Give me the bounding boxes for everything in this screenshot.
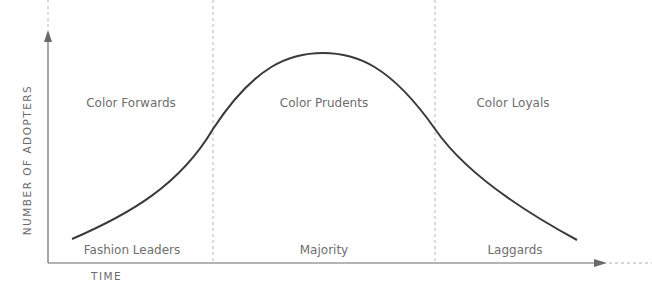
y-axis-label: NUMBER OF ADOPTERS	[21, 85, 33, 236]
segment-top-label: Color Loyals	[476, 96, 549, 110]
x-axis-arrow-icon	[594, 259, 607, 267]
x-axis-label: TIME	[91, 270, 122, 282]
segment-top-label: Color Prudents	[280, 96, 368, 110]
segment-bottom-label: Fashion Leaders	[84, 243, 181, 257]
segment-top-label: Color Forwards	[86, 96, 176, 110]
adoption-curve	[72, 53, 577, 240]
segment-bottom-label: Laggards	[487, 243, 542, 257]
y-axis-arrow-icon	[44, 30, 52, 42]
segment-bottom-label: Majority	[300, 243, 348, 257]
